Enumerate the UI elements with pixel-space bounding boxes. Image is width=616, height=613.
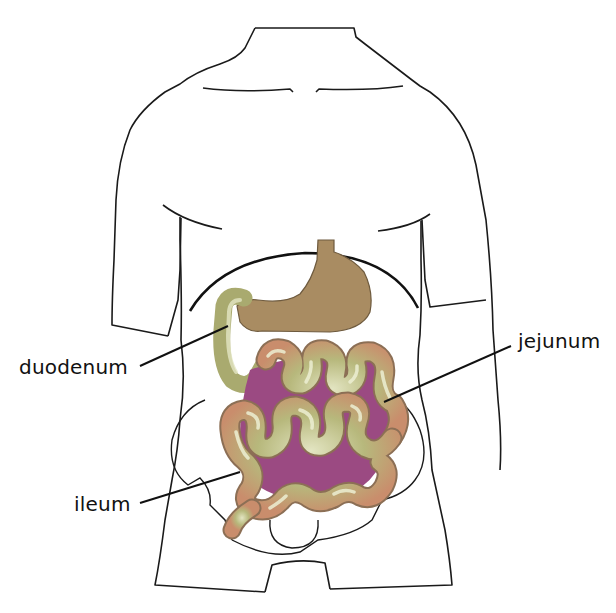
duodenum-label: duodenum [19, 357, 128, 377]
ileum-leader-line [140, 472, 240, 503]
jejunum-leader-line [384, 346, 511, 402]
jejunum-label: jejunum [518, 331, 600, 351]
small-intestine-diagram [0, 0, 616, 613]
ileum-label: ileum [74, 494, 131, 514]
